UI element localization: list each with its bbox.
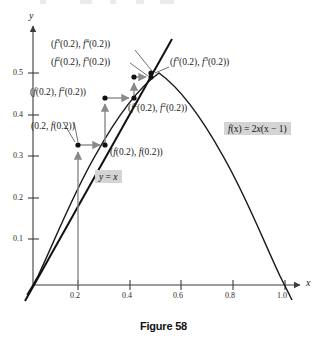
point-x0-fx0 (75, 142, 80, 147)
annotation-f1-f2: (f(0.2), f2(0.2)) (30, 88, 86, 98)
annotation-f3-f3-text: (f3(0.2), f3(0.2)) (170, 57, 229, 67)
y-tick-label-0.1: 0.1 (13, 235, 23, 243)
y-tick-label-0.2: 0.2 (13, 194, 23, 202)
point-f2-f2 (131, 95, 136, 100)
annotation-f3-f4: (f3(0.2), f4(0.2)) (51, 40, 110, 50)
annotation-f2-f2: (f2(0.2), f2(0.2)) (128, 104, 187, 114)
y-tick-label-0.4: 0.4 (13, 111, 23, 119)
annotation-f3-f4-text: (f3(0.2), f4(0.2)) (51, 39, 110, 49)
annotation-x0-f1: (0.2, f(0.2)) (31, 122, 75, 132)
y-tick-label-0.5: 0.5 (13, 69, 23, 77)
x-tick-label-1.0: 1.0 (277, 292, 287, 300)
leader-f3f4 (135, 50, 152, 71)
leader-f2f3 (130, 63, 148, 76)
figure-container: y x 0.2 0.4 0.6 0.8 1.0 0.1 0.2 0.3 0.4 … (0, 0, 327, 342)
x-tick-label-0.6: 0.6 (173, 292, 183, 300)
x-axis-label: x (306, 278, 310, 288)
function-equation-label: f(x) = 2x(x − 1) (224, 122, 291, 135)
x-tick-label-0.2: 0.2 (70, 292, 80, 300)
point-f-f (102, 142, 107, 147)
y-axis-label: y (29, 11, 33, 21)
annotation-f1-f2-text: (f(0.2), f2(0.2)) (30, 87, 86, 97)
leader-f3f3 (155, 67, 169, 73)
identity-equation-text: y = x (99, 172, 118, 182)
y-tick-label-0.3: 0.3 (13, 152, 23, 160)
figure-caption: Figure 58 (0, 320, 327, 332)
annotation-f2-f2-text: (f2(0.2), f2(0.2)) (128, 103, 187, 113)
point-f3-f4 (148, 70, 153, 75)
annotation-f1-f1-text: (f(0.2), f(0.2)) (110, 147, 163, 157)
annotation-f1-f1: (f(0.2), f(0.2)) (110, 148, 163, 158)
point-f-f2 (102, 95, 107, 100)
annotation-f2-f3-text: (f2(0.2), f3(0.2)) (51, 57, 110, 67)
annotation-f3-f3: (f3(0.2), f3(0.2)) (170, 58, 229, 68)
identity-equation-label: y = x (95, 170, 122, 183)
annotation-f2-f3: (f2(0.2), f3(0.2)) (51, 58, 110, 68)
x-tick-label-0.8: 0.8 (225, 292, 235, 300)
point-f2-f3 (131, 74, 136, 79)
function-equation-text: f(x) = 2x(x − 1) (228, 124, 287, 134)
x-tick-label-0.4: 0.4 (122, 292, 132, 300)
annotation-x0-f1-text: (0.2, f(0.2)) (31, 121, 75, 131)
